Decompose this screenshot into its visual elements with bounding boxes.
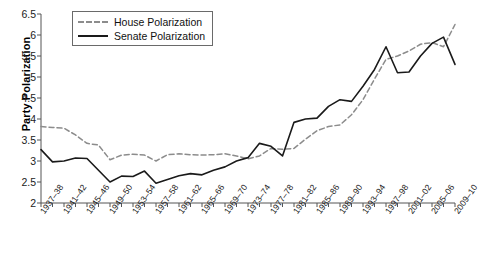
legend-label-senate: Senate Polarization [114, 30, 205, 42]
chart-legend: House Polarization Senate Polarization [72, 11, 213, 46]
legend-item-senate: Senate Polarization [78, 29, 205, 42]
legend-item-house: House Polarization [78, 15, 205, 28]
legend-label-house: House Polarization [114, 16, 202, 28]
solid-line-icon [78, 35, 108, 37]
dashed-line-icon [78, 21, 108, 23]
